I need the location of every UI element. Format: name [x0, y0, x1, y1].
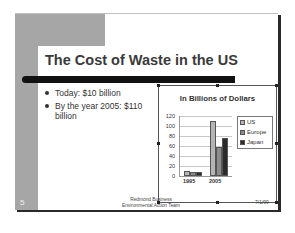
footer-text: Redmond Business Environmental Action Te… [111, 197, 191, 208]
legend-swatch-icon [240, 120, 245, 125]
plot-area [179, 116, 232, 177]
slide-title: The Cost of Waste in the US [45, 52, 238, 68]
x-tick: 2005 [209, 178, 221, 184]
legend-item-europe: Europe [238, 128, 272, 137]
slide-shadow-right [278, 15, 281, 212]
chart-object[interactable]: In Billions of Dollars 120 100 80 60 40 … [158, 85, 277, 203]
legend-item-us: US [238, 118, 272, 127]
top-band [15, 14, 105, 46]
bullet-list: Today: $10 billion By the year 2005: $11… [44, 88, 164, 124]
y-tick: 20 [159, 163, 175, 169]
resize-handle[interactable] [275, 201, 278, 204]
y-tick: 60 [159, 143, 175, 149]
footer-date: 7/1/99 [255, 199, 269, 205]
y-tick: 40 [159, 153, 175, 159]
resize-handle[interactable] [157, 84, 160, 87]
bullet-item: Today: $10 billion [44, 88, 164, 98]
bar-japan-2005 [222, 138, 228, 176]
bullet-item: By the year 2005: $110 billion [44, 101, 164, 121]
gridline [180, 126, 232, 127]
y-tick: 80 [159, 133, 175, 139]
resize-handle[interactable] [275, 142, 278, 145]
title-underline-bar [22, 76, 235, 83]
legend-swatch-icon [240, 130, 245, 135]
bar-japan-1995 [196, 172, 202, 176]
resize-handle[interactable] [216, 84, 219, 87]
bullet-dot-icon [45, 91, 49, 95]
legend-item-japan: Japan [238, 138, 272, 147]
resize-handle[interactable] [275, 84, 278, 87]
chart-legend: US Europe Japan [237, 116, 273, 149]
gridline [180, 136, 232, 137]
legend-swatch-icon [240, 140, 245, 145]
slide: The Cost of Waste in the US Today: $10 b… [15, 13, 278, 210]
gridline [180, 116, 232, 117]
chart-title: In Billions of Dollars [159, 94, 276, 103]
x-tick: 1995 [183, 178, 195, 184]
y-tick: 0 [159, 173, 175, 179]
y-tick: 120 [159, 113, 175, 119]
resize-handle[interactable] [216, 201, 219, 204]
bullet-dot-icon [45, 104, 49, 108]
page-number: 5 [20, 198, 24, 207]
y-tick: 100 [159, 123, 175, 129]
